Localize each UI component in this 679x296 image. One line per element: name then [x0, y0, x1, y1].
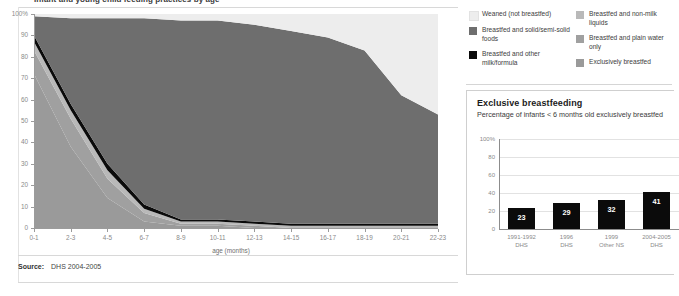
x-tick-mark	[181, 229, 182, 232]
source-value: DHS 2004-2005	[51, 263, 101, 270]
exclusive-breastfeeding-card: Exclusive breastfeeding Percentage of in…	[466, 90, 674, 275]
legend-item[interactable]: Breastfed and solid/semi-solid foods	[469, 26, 574, 43]
legend-item[interactable]: Breastfed and other milk/formula	[469, 50, 574, 67]
bar-value-label: 41	[643, 197, 671, 206]
x-tick-mark	[34, 229, 35, 232]
bar-category-line: DHS	[634, 241, 679, 249]
bar-x-axis-line	[499, 229, 679, 230]
bar-y-tick-label: 40	[471, 190, 495, 196]
bar-chart-plot: 23293241	[499, 139, 679, 229]
y-tick-mark	[31, 100, 34, 101]
y-tick-label: 10	[2, 204, 28, 210]
legend-swatch	[576, 11, 584, 19]
legend-label: Breastfed and non-milk liquids	[589, 10, 676, 27]
bar-value-label: 32	[598, 205, 626, 214]
legend-item[interactable]: Breastfed and plain water only	[576, 34, 676, 51]
bar-value-label: 23	[508, 213, 536, 222]
x-axis-title: age (months)	[0, 247, 462, 254]
x-tick-mark	[218, 229, 219, 232]
y-tick-mark	[31, 57, 34, 58]
y-tick-mark	[31, 14, 34, 15]
y-tick-mark	[31, 35, 34, 36]
bar-y-tick-label: 100%	[471, 136, 495, 142]
chart-legend: Weaned (not breastfed)Breastfed and soli…	[466, 10, 674, 82]
x-tick-label: 22-23	[417, 235, 459, 241]
x-tick-mark	[291, 229, 292, 232]
source-label: Source:	[18, 263, 44, 270]
area-chart-plot	[34, 14, 438, 228]
bar-category-line: DHS	[499, 241, 544, 249]
bar-y-tick-label: 0	[471, 226, 495, 232]
bar-category-line: 1991-1992	[499, 233, 544, 241]
bar-category-label: 1999Other NS	[589, 233, 634, 249]
x-tick-label: 4-5	[86, 235, 128, 241]
legend-item[interactable]: Weaned (not breastfed)	[469, 10, 574, 19]
legend-column-right: Breastfed and non-milk liquidsBreastfed …	[576, 10, 676, 74]
legend-label: Breastfed and plain water only	[589, 34, 676, 51]
y-tick-label: 60	[2, 97, 28, 103]
area-chart-canvas	[34, 14, 438, 228]
bar-category-line: 1999	[589, 233, 634, 241]
y-tick-label: 100%	[2, 11, 28, 17]
bar-y-tick-label: 60	[471, 172, 495, 178]
bar-category-label: 1991-1992DHS	[499, 233, 544, 249]
right-panel: Weaned (not breastfed)Breastfed and soli…	[462, 0, 674, 296]
bar-category-label: 2004-2005DHS	[634, 233, 679, 249]
y-tick-label: 80	[2, 54, 28, 60]
x-tick-label: 20-21	[380, 235, 422, 241]
main-chart-title: Infant and young child feeding practices…	[34, 0, 220, 4]
x-tick-mark	[401, 229, 402, 232]
legend-label: Exclusively breastfed	[589, 58, 676, 67]
legend-label: Breastfed and solid/semi-solid foods	[482, 26, 574, 43]
source-note: Source:DHS 2004-2005	[18, 263, 101, 270]
y-tick-mark	[31, 185, 34, 186]
x-tick-mark	[254, 229, 255, 232]
y-tick-mark	[31, 207, 34, 208]
x-tick-label: 6-7	[123, 235, 165, 241]
y-tick-label: 30	[2, 161, 28, 167]
x-tick-label: 14-15	[270, 235, 312, 241]
bar-category-label: 1996DHS	[544, 233, 589, 249]
bar: 23	[508, 208, 536, 229]
bar-category-line: DHS	[544, 241, 589, 249]
x-tick-label: 12-13	[233, 235, 275, 241]
area-chart-svg	[34, 14, 438, 228]
x-tick-mark	[365, 229, 366, 232]
y-tick-label: 90	[2, 32, 28, 38]
x-tick-mark	[144, 229, 145, 232]
y-tick-label: 20	[2, 182, 28, 188]
x-tick-mark	[71, 229, 72, 232]
x-tick-label: 16-17	[307, 235, 349, 241]
legend-swatch	[576, 35, 584, 43]
bar-category-line: Other NS	[589, 241, 634, 249]
x-tick-mark	[107, 229, 108, 232]
legend-swatch	[469, 27, 477, 35]
bar-category-line: 1996	[544, 233, 589, 241]
x-axis-line	[34, 228, 438, 229]
legend-item[interactable]: Exclusively breastfed	[576, 58, 676, 67]
panel-bottom-rule	[18, 255, 458, 256]
card-title: Exclusive breastfeeding	[477, 98, 582, 108]
card-subtitle: Percentage of infants < 6 months old exc…	[477, 110, 677, 120]
y-tick-label: 70	[2, 75, 28, 81]
y-axis-line	[34, 14, 35, 228]
x-tick-mark	[438, 229, 439, 232]
bar: 32	[598, 200, 626, 229]
y-tick-mark	[31, 164, 34, 165]
bar-y-tick-label: 80	[471, 154, 495, 160]
bar: 29	[553, 203, 581, 229]
x-tick-label: 8-9	[160, 235, 202, 241]
bar-value-label: 29	[553, 208, 581, 217]
panel-top-rule	[18, 7, 458, 8]
legend-label: Weaned (not breastfed)	[482, 10, 574, 19]
x-tick-label: 10-11	[197, 235, 239, 241]
legend-item[interactable]: Breastfed and non-milk liquids	[576, 10, 676, 27]
bar: 41	[643, 192, 671, 229]
y-tick-label: 50	[2, 118, 28, 124]
x-tick-label: 0-1	[13, 235, 55, 241]
x-tick-label: 2-3	[50, 235, 92, 241]
legend-divider	[466, 84, 672, 85]
y-tick-mark	[31, 78, 34, 79]
legend-swatch	[576, 59, 584, 67]
